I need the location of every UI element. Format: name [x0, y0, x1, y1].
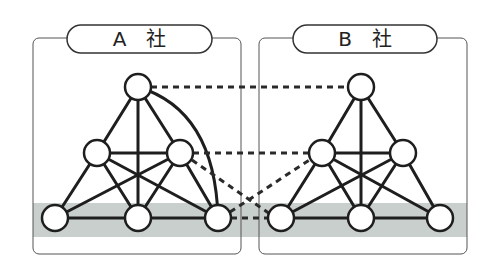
node-a-middle-right	[167, 140, 193, 166]
node-a-bottom-right	[205, 205, 231, 231]
node-b-bottom-right	[427, 205, 453, 231]
node-a-bottom-center	[125, 205, 151, 231]
bottom-tier-band	[33, 203, 467, 237]
node-b-middle-left	[309, 140, 335, 166]
company-b-label: B 社	[293, 26, 437, 52]
node-b-middle-right	[390, 140, 416, 166]
node-a-top	[125, 74, 151, 100]
company-a-label: A 社	[67, 26, 212, 52]
node-b-bottom-center	[348, 205, 374, 231]
node-b-top	[348, 74, 374, 100]
node-a-bottom-left	[42, 205, 68, 231]
node-b-bottom-left	[268, 205, 294, 231]
node-a-middle-left	[84, 140, 110, 166]
